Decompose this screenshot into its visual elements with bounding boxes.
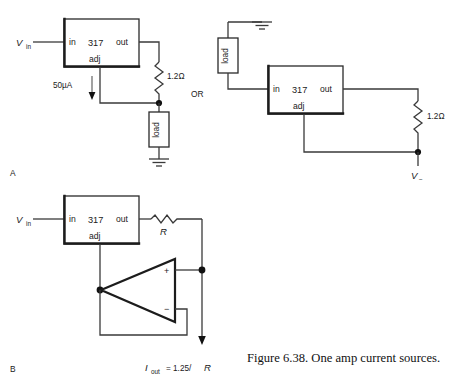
resistor-1r2-label-a: 1.2Ω [167, 72, 185, 81]
wire-adj-to-node-alt [304, 114, 418, 152]
circuit-a-group: V in in 317 out adj 1.2Ω 50µA [10, 19, 185, 178]
pin-adj-label-alt: adj [293, 101, 305, 111]
ground-icon-a [149, 159, 169, 166]
vin-sublabel-b: in [26, 220, 31, 227]
opamp-minus-label-b: − [164, 304, 169, 314]
pin-in-label-b: in [69, 214, 76, 224]
iout-label-sub-b: out [151, 368, 160, 375]
iout-expression-b: = 1.25/ [166, 364, 192, 373]
regulator-part-label-a: 317 [88, 38, 103, 48]
pin-in-label-a: in [69, 37, 76, 47]
ground-icon-alt [252, 22, 272, 29]
resistor-1r2-label-alt: 1.2Ω [427, 112, 445, 121]
adj-current-label-a: 50µA [53, 81, 73, 90]
wire-out-to-resistor-alt [343, 89, 418, 101]
pin-out-label-a: out [116, 37, 129, 47]
load-label-alt: load [221, 48, 230, 64]
iout-variable-b: R [204, 362, 211, 373]
regulator-part-label-alt: 317 [292, 85, 307, 95]
rail-sublabel-alt: − [419, 176, 423, 183]
resistor-1r2-symbol-alt [414, 101, 422, 152]
circuit-b-group: V in in 317 out adj R + − [10, 196, 211, 375]
load-label-a: load [152, 122, 161, 138]
circuit-a-alt-group: load in 317 out adj 1.2Ω V − [218, 22, 445, 183]
resistor-r-symbol-b [151, 215, 202, 223]
pin-in-label-alt: in [273, 84, 280, 94]
resistor-1r2-symbol-a [155, 62, 163, 103]
vin-label-a: V [16, 37, 24, 48]
rail-label-alt: V [411, 170, 419, 181]
pin-out-label-b: out [116, 214, 129, 224]
panel-label-a: A [10, 168, 16, 178]
vin-label-b: V [16, 214, 24, 225]
wire-load-to-in-alt [228, 73, 268, 89]
circuit-diagram-canvas: V in in 317 out adj 1.2Ω 50µA [0, 0, 470, 385]
pin-out-label-alt: out [320, 84, 333, 94]
iout-arrow-head-b [198, 336, 206, 345]
iout-label-main-b: I [145, 362, 148, 373]
resistor-r-label-b: R [160, 226, 167, 237]
regulator-part-label-b: 317 [88, 215, 103, 225]
figure-caption: Figure 6.38. One amp current sources. [247, 351, 440, 366]
rail-node-b [199, 267, 206, 274]
wire-adj-to-node-a [100, 67, 159, 103]
pin-adj-label-b: adj [89, 231, 101, 241]
pin-adj-label-a: adj [89, 54, 101, 64]
vin-sublabel-a: in [26, 43, 31, 50]
panel-label-b: B [10, 364, 16, 374]
adj-current-arrow-head-a [89, 92, 96, 100]
opamp-plus-label-b: + [164, 266, 169, 276]
figure-container: V in in 317 out adj 1.2Ω 50µA [0, 0, 470, 385]
wire-out-to-resistor-a [139, 42, 159, 62]
or-connector-label: OR [191, 89, 204, 99]
